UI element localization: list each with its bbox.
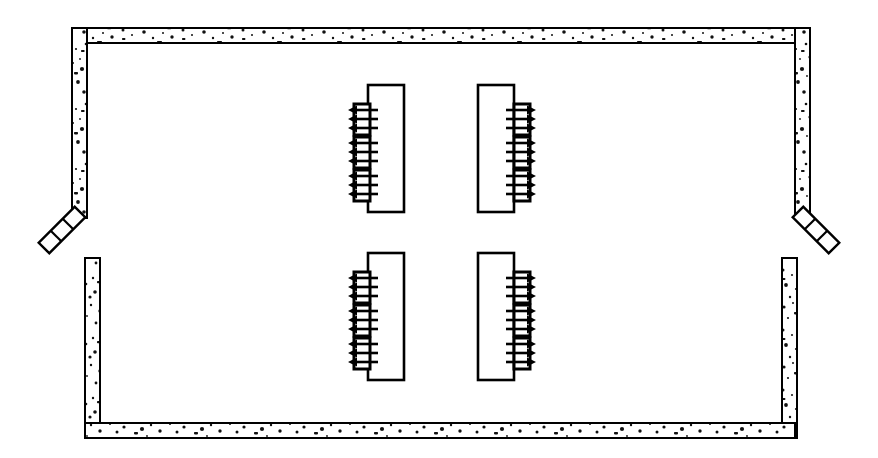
unit-bottom-left [348,253,404,380]
upper-right-wall-body [795,28,810,218]
unit-bottom-right-flow-group-2 [506,307,536,334]
walls-layer [72,28,810,438]
upper-left-wall [72,28,87,218]
top-wall-body [72,28,810,43]
lower-right-wall [782,258,797,438]
right-angled-deflector [793,207,840,254]
lower-right-wall-body [782,258,797,438]
plan-drawing [0,0,878,458]
upper-right-wall [795,28,810,218]
unit-top-left-flow-group-3 [348,172,378,199]
unit-bottom-left-flow-group-2 [348,307,378,334]
units-layer [348,85,536,380]
deflectors-layer [39,207,840,254]
upper-left-wall-body [72,28,87,218]
unit-top-left-flow-group-1 [348,106,378,133]
unit-top-right [478,85,536,212]
left-angled-deflector-outline [39,207,86,254]
unit-bottom-right-flow-group-1 [506,274,536,301]
unit-bottom-right-flow-group-3 [506,340,536,367]
bottom-wall [85,423,795,438]
unit-top-left-flow-group-2 [348,139,378,166]
unit-bottom-right [478,253,536,380]
left-angled-deflector-bar [39,207,86,254]
right-angled-deflector-outline [793,207,840,254]
diagram-canvas [0,0,878,458]
unit-top-left [348,85,404,212]
unit-top-right-flow-group-2 [506,139,536,166]
unit-top-right-flow-group-1 [506,106,536,133]
unit-bottom-left-flow-group-3 [348,340,378,367]
left-angled-deflector [39,207,86,254]
unit-bottom-left-flow-group-1 [348,274,378,301]
lower-left-wall-body [85,258,100,438]
right-angled-deflector-bar [793,207,840,254]
top-wall [72,28,810,43]
unit-top-right-flow-group-3 [506,172,536,199]
bottom-wall-body [85,423,795,438]
lower-left-wall [85,258,100,438]
